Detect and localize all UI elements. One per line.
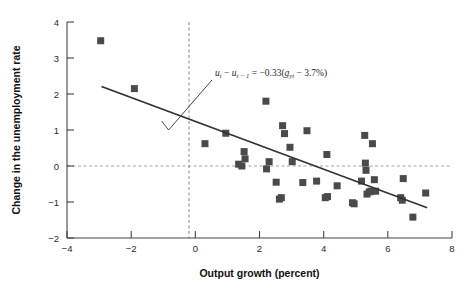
y-tick-label: −2 (48, 233, 59, 244)
x-tick-label: 8 (449, 243, 454, 254)
scatter-point (242, 155, 249, 162)
x-tick-label: 4 (321, 243, 326, 254)
scatter-point (362, 160, 369, 167)
scatter-point (363, 167, 370, 174)
x-tick-label: −4 (62, 243, 73, 254)
eq-u2-subscript: t − 1 (236, 72, 249, 79)
y-tick-label: 2 (54, 89, 59, 100)
scatter-point (313, 178, 320, 185)
scatter-point (262, 98, 269, 105)
eq-minus: − (222, 68, 232, 78)
y-axis-ticks (67, 22, 74, 238)
x-axis-title: Output growth (percent) (199, 267, 319, 279)
scatter-point (241, 148, 248, 155)
y-axis-title: Change in the unemployment rate (10, 45, 22, 214)
y-tick-label: 0 (54, 161, 59, 172)
x-tick-label: −2 (126, 243, 137, 254)
scatter-point (334, 182, 341, 189)
regression-fit-line (102, 87, 426, 208)
scatter-point (369, 140, 376, 147)
scatter-point (281, 130, 288, 137)
y-tick-label: −1 (48, 197, 59, 208)
okun-law-scatter-figure: 4 3 2 1 0 −1 −2 −4 −2 0 2 4 6 8 (0, 0, 474, 291)
scatter-point (409, 214, 416, 221)
x-axis-tick-labels: −4 −2 0 2 4 6 8 (62, 243, 455, 254)
eq-equals: = (249, 68, 259, 78)
y-tick-label: 4 (54, 17, 59, 28)
eq-tail: − 3.7%) (294, 68, 327, 79)
y-axis-tick-labels: 4 3 2 1 0 −1 −2 (48, 17, 59, 244)
annotation-leader-line (162, 80, 212, 130)
scatter-point (361, 132, 368, 139)
x-tick-label: 2 (257, 243, 262, 254)
scatter-point (97, 37, 104, 44)
scatter-point (323, 151, 330, 158)
scatter-point (351, 200, 358, 207)
scatter-point (201, 140, 208, 147)
scatter-point (303, 127, 310, 134)
x-tick-label: 0 (193, 243, 198, 254)
scatter-point (400, 175, 407, 182)
scatter-point (238, 163, 245, 170)
scatter-point (371, 176, 378, 183)
chart-canvas: 4 3 2 1 0 −1 −2 −4 −2 0 2 4 6 8 (0, 0, 474, 291)
scatter-point (279, 122, 286, 129)
y-tick-label: 1 (54, 125, 59, 136)
scatter-point (263, 165, 270, 172)
eq-coefficient: −0.33( (259, 68, 284, 79)
scatter-point (299, 179, 306, 186)
okun-law-equation-label: ut − ut − 1 = −0.33(gyt − 3.7%) (215, 68, 327, 79)
scatter-points-layer (97, 37, 429, 220)
x-tick-label: 6 (385, 243, 390, 254)
scatter-point (286, 144, 293, 151)
scatter-point (273, 179, 280, 186)
scatter-point (278, 194, 285, 201)
x-axis-ticks (67, 231, 452, 238)
scatter-point (131, 85, 138, 92)
y-tick-label: 3 (54, 53, 59, 64)
scatter-point (266, 158, 273, 165)
scatter-point (324, 193, 331, 200)
scatter-point (422, 190, 429, 197)
